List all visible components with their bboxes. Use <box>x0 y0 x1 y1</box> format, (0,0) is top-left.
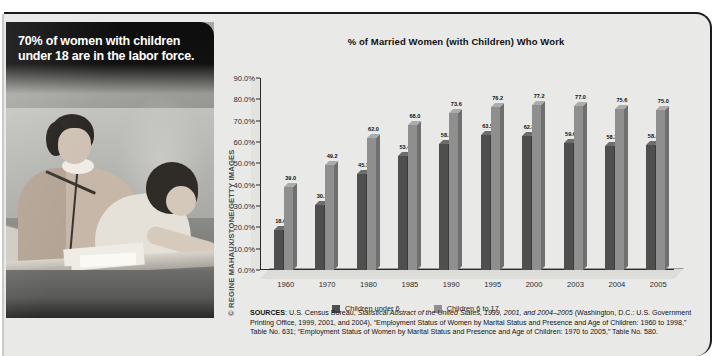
chart-bar-front <box>532 105 541 270</box>
chart-y-tick-label: 80.0% <box>233 95 255 104</box>
chart-x-tick-label: 1970 <box>319 280 336 289</box>
sources-text-1: : U.S. Census Bureau, <box>285 309 358 317</box>
chart-x-tick-label: 2000 <box>526 280 543 289</box>
chart-y-tick-label: 50.0% <box>233 159 255 168</box>
chart-bar-front <box>615 109 624 270</box>
sources-label: SOURCES <box>250 309 285 317</box>
photo-credit-text: © REGINE MAHAUX/STONE/GETTY IMAGES <box>227 149 236 316</box>
chart-bar-value-label: 49.2 <box>327 153 338 159</box>
chart-bar <box>532 105 541 270</box>
chart-bar-front <box>367 138 376 270</box>
chart-y-tick-label: 30.0% <box>233 202 255 211</box>
chart-bar-front <box>398 156 407 270</box>
chart-bar-side <box>458 109 462 270</box>
chart-x-tick-label: 2003 <box>567 280 584 289</box>
chart-bar-front <box>564 143 573 270</box>
chart-bar-side <box>376 134 380 270</box>
chart-bar-side <box>293 183 297 270</box>
chart-bar-value-label: 77.2 <box>534 93 545 99</box>
chart-bar-group: 53.468.0 <box>398 78 420 270</box>
chart-bar-side <box>624 105 628 270</box>
chart-bar-front <box>574 106 583 270</box>
chart-bar-group: 30.349.2 <box>315 78 337 270</box>
chart-bar-front <box>439 144 448 270</box>
chart-title: % of Married Women (with Children) Who W… <box>236 36 676 47</box>
chart-bar-side <box>541 101 545 270</box>
chart-bar-group: 63.576.2 <box>481 78 503 270</box>
chart-bar-side <box>417 121 421 270</box>
woman-face <box>58 128 91 164</box>
chart-y-tick-mark <box>256 248 260 249</box>
chart-bar-value-label: 75.0 <box>658 98 669 104</box>
chart-bar <box>367 138 376 270</box>
chart-y-tick-label: 0.0% <box>238 266 255 275</box>
chart-bar-group: 58.375.6 <box>605 78 627 270</box>
chart-y-tick-mark <box>256 206 260 207</box>
chart-bar <box>574 106 583 270</box>
chart-y-tick-mark <box>256 142 260 143</box>
photo-headline: 70% of women with children under 18 are … <box>18 34 208 63</box>
child-face <box>166 186 196 216</box>
chart-bar-front <box>408 125 417 270</box>
figure-page: 70% of women with children under 18 are … <box>0 0 720 356</box>
chart-x-tick-label: 1990 <box>443 280 460 289</box>
chart-bar-front <box>357 174 366 270</box>
chart-bar-front <box>449 113 458 270</box>
chart-bar <box>615 109 624 270</box>
chart-bar-front <box>522 136 531 270</box>
chart-bar <box>325 165 334 270</box>
chart-y-tick-mark <box>256 163 260 164</box>
chart-bar <box>284 187 293 270</box>
chart-bar-front <box>605 146 614 270</box>
chart-y-tick-label: 10.0% <box>233 244 255 253</box>
chart-x-tick-label: 2005 <box>650 280 667 289</box>
chart-y-tick-mark <box>256 120 260 121</box>
chart-bar-value-label: 39.0 <box>285 175 296 181</box>
chart-bar-front <box>481 135 490 270</box>
chart-bar-value-label: 68.0 <box>409 113 420 119</box>
chart-bar-value-label: 76.2 <box>492 95 503 101</box>
chart-bar-front <box>656 110 665 270</box>
chart-bar-group: 58.973.6 <box>439 78 461 270</box>
chart-bar <box>491 107 500 270</box>
chart-bar <box>564 143 573 270</box>
chart-bar-value-label: 73.6 <box>451 101 462 107</box>
chart-x-tick-label: 1985 <box>401 280 418 289</box>
chart-bar-value-label: 75.6 <box>616 97 627 103</box>
chart-bar <box>646 145 655 270</box>
photo-panel: 70% of women with children under 18 are … <box>6 22 214 318</box>
chart-bar-front <box>491 107 500 270</box>
chart-x-tick-label: 2004 <box>608 280 625 289</box>
chart-plot-area: 0.0%10.0%20.0%30.0%40.0%50.0%60.0%70.0%8… <box>260 78 674 270</box>
chart-bar <box>605 146 614 270</box>
chart-bar <box>357 174 366 270</box>
chart-bar-group: 58.875.0 <box>646 78 668 270</box>
chart-y-axis <box>260 78 261 270</box>
sources-italic-title: Statistical Abstract of the United State… <box>358 309 573 317</box>
chart-bar <box>274 230 283 270</box>
chart-y-tick-mark <box>256 99 260 100</box>
chart-bar <box>439 144 448 270</box>
chart-bar-side <box>334 161 338 270</box>
chart-x-tick-label: 1960 <box>277 280 294 289</box>
chart-y-tick-label: 40.0% <box>233 180 255 189</box>
chart-bar-group: 59.677.0 <box>564 78 586 270</box>
chart-bar-side <box>665 106 669 270</box>
chart-bar-front <box>284 187 293 270</box>
chart-bar <box>315 205 324 270</box>
chart: % of Married Women (with Children) Who W… <box>236 22 706 290</box>
photo-credit: © REGINE MAHAUX/STONE/GETTY IMAGES <box>216 140 230 320</box>
chart-y-tick-mark <box>256 227 260 228</box>
chart-y-tick-label: 60.0% <box>233 138 255 147</box>
chart-y-tick-mark <box>256 270 260 271</box>
sources-note: SOURCES: U.S. Census Bureau, Statistical… <box>250 309 702 338</box>
chart-bar <box>522 136 531 270</box>
chart-bar <box>656 110 665 270</box>
chart-bar <box>481 135 490 270</box>
chart-x-tick-label: 1995 <box>484 280 501 289</box>
chart-y-tick-mark <box>256 78 260 79</box>
chart-bar-front <box>274 230 283 270</box>
chart-bar <box>449 113 458 270</box>
chart-x-tick-label: 1980 <box>360 280 377 289</box>
chart-y-tick-label: 20.0% <box>233 223 255 232</box>
